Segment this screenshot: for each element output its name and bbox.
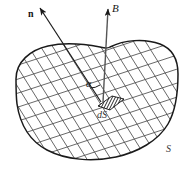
normal-vector-label: n — [28, 9, 34, 19]
field-vector-line — [103, 9, 108, 102]
angle-label: α — [86, 79, 91, 89]
surface-label: S — [166, 144, 171, 154]
figure-canvas — [0, 0, 192, 170]
figure-root: n B α dS S — [0, 0, 192, 170]
area-element-label: dS — [97, 110, 107, 120]
field-vector-label: B — [112, 3, 119, 14]
closed-surface-S — [0, 0, 192, 170]
